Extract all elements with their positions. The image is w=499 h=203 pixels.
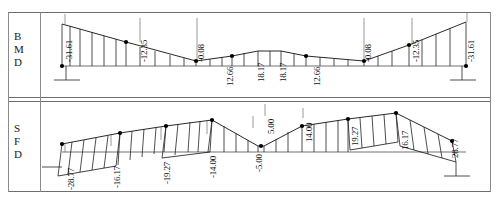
frame-label-divider xyxy=(40,12,41,192)
bmd-value-label: 18.17 xyxy=(278,63,288,82)
bmd-value-label: -31.61 xyxy=(64,40,74,62)
sfd-value-label: -14.00 xyxy=(208,156,218,178)
sfd-node xyxy=(118,131,122,135)
panel-label-sfd-line-2: D xyxy=(14,148,22,161)
panel-label-sfd: S F D xyxy=(14,122,22,161)
bmd-value-label: -0.08 xyxy=(196,44,206,62)
frame-top-rule xyxy=(8,12,491,13)
sfd-value-label: 16.17 xyxy=(400,131,410,150)
bmd-value-label: 18.17 xyxy=(256,63,266,82)
bmd-value-label: -12.35 xyxy=(139,40,149,62)
panel-label-bmd-line-2: D xyxy=(14,56,24,69)
sfd-value-label: 28.77 xyxy=(450,139,460,158)
sfd-value-label: -19.27 xyxy=(162,162,172,184)
sfd-node xyxy=(210,118,214,122)
sfd-value-label: 19.27 xyxy=(350,127,360,146)
bmd-value-label: -31.61 xyxy=(466,40,476,62)
panel-label-sfd-line-1: F xyxy=(14,135,22,148)
sfd-value-label: -28.77 xyxy=(66,168,76,190)
frame-left-rule xyxy=(8,12,9,192)
sfd-node xyxy=(259,144,263,148)
panel-label-bmd-line-0: B xyxy=(14,30,24,43)
frame-mid-rule-upper xyxy=(8,97,491,98)
sfd-value-label: -16.17 xyxy=(112,166,122,188)
sfd-value-label: -5.00 xyxy=(254,154,264,172)
panel-label-bmd-line-1: M xyxy=(14,43,24,56)
bmd-curve xyxy=(62,22,466,61)
bmd-value-label: -0.08 xyxy=(363,44,373,62)
frame-right-rule xyxy=(490,12,491,192)
sfd-node xyxy=(164,124,168,128)
bmd-node xyxy=(124,40,128,44)
bmd-value-label: 12.66 xyxy=(312,67,322,86)
bmd-node xyxy=(304,54,308,58)
bmd-value-label: 12.66 xyxy=(225,67,235,86)
bmd-node xyxy=(230,54,234,58)
figure-root: B M D S F D xyxy=(0,0,499,203)
frame-mid-rule-lower xyxy=(8,101,491,102)
bmd-node xyxy=(60,64,64,68)
sfd-curve xyxy=(62,113,452,146)
sfd-node xyxy=(60,142,64,146)
frame-bottom-rule xyxy=(8,191,491,192)
panel-label-sfd-line-0: S xyxy=(14,122,22,135)
sfd-node xyxy=(394,111,398,115)
sfd-value-label: 5.00 xyxy=(266,119,276,134)
sfd-value-label: 14.00 xyxy=(304,123,314,142)
bmd-value-label: -12.35 xyxy=(411,40,421,62)
panel-label-bmd: B M D xyxy=(14,30,24,69)
sfd-node xyxy=(346,117,350,121)
bmd-node xyxy=(464,64,468,68)
